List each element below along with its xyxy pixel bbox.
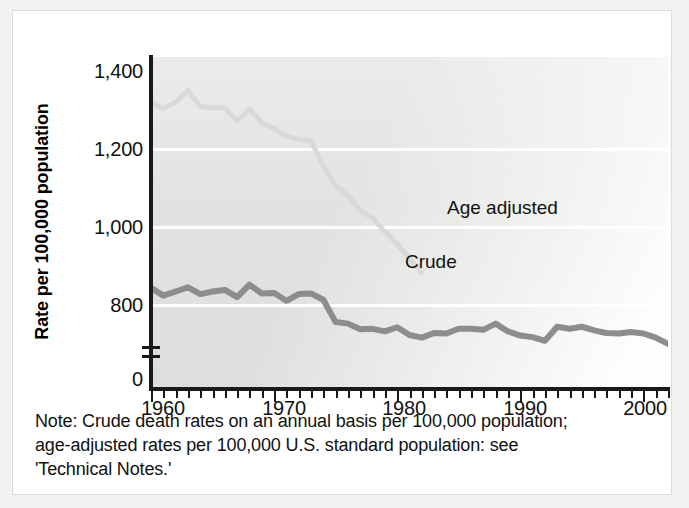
figure-note: Note: Crude death rates on an annual bas…	[35, 409, 661, 481]
y-axis-break-mark-lower	[142, 355, 160, 358]
y-tick-1200: 1,200	[57, 138, 143, 161]
x-tick-mark-1998	[619, 391, 621, 398]
y-axis-line	[149, 55, 153, 391]
y-tick-0: 0	[57, 368, 143, 391]
note-line-3: 'Technical Notes.'	[35, 457, 661, 481]
series-overlay	[151, 57, 668, 389]
x-tick-mark-1985	[459, 391, 461, 398]
x-tick-mark-2002	[668, 391, 670, 398]
figure-panel: 1,400 1,200 1,000 800 0 1960 1970 1980 1…	[12, 10, 672, 495]
x-tick-mark-1986	[471, 391, 473, 398]
x-tick-mark-1965	[213, 391, 215, 398]
age-adjusted-line	[151, 91, 422, 273]
x-tick-mark-1966	[225, 391, 227, 398]
x-tick-mark-1973	[311, 391, 313, 398]
y-tick-1400: 1,400	[57, 60, 143, 83]
series-label-age-adjusted: Age adjusted	[447, 197, 558, 219]
x-tick-mark-1974	[323, 391, 325, 398]
note-line-2: age-adjusted rates per 100,000 U.S. stan…	[35, 433, 661, 457]
x-tick-mark-1967	[237, 391, 239, 398]
x-tick-mark-1987	[483, 391, 485, 398]
x-tick-mark-1975	[336, 391, 338, 398]
y-axis-break-mark-upper	[142, 346, 160, 349]
x-tick-mark-1968	[249, 391, 251, 398]
y-tick-1000: 1,000	[57, 216, 143, 239]
y-axis-title: Rate per 100,000 population	[32, 72, 53, 372]
x-tick-mark-1997	[606, 391, 608, 398]
x-tick-mark-1978	[373, 391, 375, 398]
x-tick-mark-1976	[348, 391, 350, 398]
x-tick-mark-1984	[446, 391, 448, 398]
figure-frame: 1,400 1,200 1,000 800 0 1960 1970 1980 1…	[0, 0, 689, 508]
y-tick-800: 800	[57, 294, 143, 317]
x-tick-mark-1977	[360, 391, 362, 398]
x-tick-mark-1988	[496, 391, 498, 398]
line-chart: 1,400 1,200 1,000 800 0 1960 1970 1980 1…	[13, 11, 673, 496]
series-label-crude: Crude	[405, 251, 457, 273]
x-tick-mark-1994	[570, 391, 572, 398]
x-tick-mark-1993	[557, 391, 559, 398]
x-tick-mark-1983	[434, 391, 436, 398]
x-tick-mark-1995	[582, 391, 584, 398]
note-line-1: Note: Crude death rates on an annual bas…	[35, 409, 661, 433]
x-tick-mark-1964	[200, 391, 202, 398]
x-tick-mark-1996	[594, 391, 596, 398]
x-tick-mark-1963	[188, 391, 190, 398]
crude-line	[151, 285, 668, 344]
